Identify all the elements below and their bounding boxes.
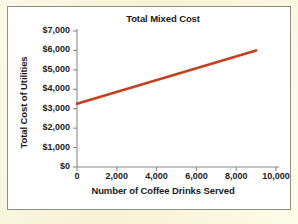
chart: Total Mixed Cost Total Cost of Utilities… (8, 7, 290, 209)
axes (73, 29, 279, 171)
plot-area (8, 7, 290, 209)
data-line (77, 50, 256, 103)
chart-frame: Total Mixed Cost Total Cost of Utilities… (7, 6, 291, 210)
page-background: Total Mixed Cost Total Cost of Utilities… (0, 0, 298, 224)
data-series (77, 50, 256, 103)
